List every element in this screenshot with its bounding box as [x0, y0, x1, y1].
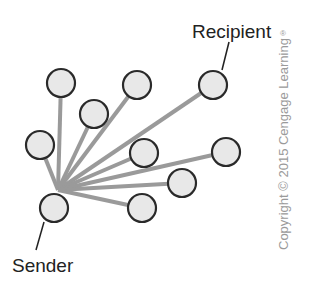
- node-n5: [26, 131, 54, 159]
- node-n2: [123, 71, 151, 99]
- sender-leader-line: [36, 222, 44, 250]
- node-n8: [168, 169, 196, 197]
- sender-label: Sender: [12, 255, 74, 276]
- node-recipient: [199, 71, 227, 99]
- node-n7: [212, 138, 240, 166]
- node-n6: [130, 139, 158, 167]
- copyright-notice: Copyright © 2015 Cengage Learning: [276, 38, 291, 250]
- recipient-label: Recipient: [192, 21, 272, 42]
- edge-n1: [58, 83, 61, 190]
- node-sender: [40, 194, 68, 222]
- node-n4: [80, 100, 108, 128]
- copyright-text: Copyright © 2015 Cengage Learning: [276, 38, 291, 250]
- node-n1: [47, 69, 75, 97]
- registered-mark: ®: [280, 29, 286, 38]
- node-n10: [128, 194, 156, 222]
- recipient-leader-line: [222, 42, 229, 70]
- sender-recipient-diagram: Recipient Sender Copyright © 2015 Cengag…: [0, 0, 312, 288]
